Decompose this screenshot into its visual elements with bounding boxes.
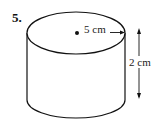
radius-label: 5 cm bbox=[84, 23, 106, 35]
height-label: 2 cm bbox=[129, 56, 151, 68]
cylinder-bottom-arc bbox=[27, 100, 125, 118]
height-arrowhead-bottom bbox=[137, 93, 141, 99]
height-arrowhead-top bbox=[137, 28, 141, 34]
center-dot bbox=[75, 31, 79, 35]
